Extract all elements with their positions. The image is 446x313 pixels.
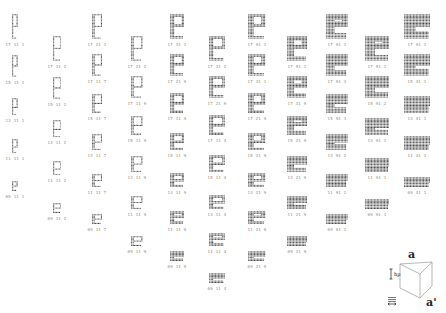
letter-e-glyph	[209, 115, 225, 135]
legend-label-a-prime: a'	[426, 296, 437, 309]
letter-e-glyph	[12, 14, 18, 39]
glyph-parameter-label: 09 11 1	[6, 194, 25, 199]
letter-e-glyph	[170, 173, 185, 188]
glyph-cell: 09 11 7	[82, 214, 112, 232]
glyph-parameter-label: 17 31 2	[208, 64, 227, 69]
letter-e-glyph	[170, 133, 185, 150]
letter-e-glyph	[365, 36, 390, 61]
letter-e-glyph	[131, 156, 143, 172]
glyph-parameter-label: 17 91 1	[328, 42, 347, 47]
glyph-cell: 09 21 9	[282, 236, 312, 254]
glyph-cell: 09 41 1	[402, 177, 432, 195]
glyph-cell: 17 91 1	[282, 36, 312, 69]
letter-e-glyph	[209, 76, 225, 98]
letter-e-glyph	[92, 54, 102, 76]
letter-e-glyph	[131, 76, 143, 98]
glyph-cell: 17 31 2	[202, 36, 232, 69]
glyph-cell: 15 11 1	[0, 55, 30, 85]
glyph-parameter-label: 17 91 1	[248, 42, 267, 47]
letter-e-glyph	[287, 36, 307, 61]
glyph-parameter-label: 17 11 9	[128, 101, 147, 106]
letter-e-glyph	[209, 155, 225, 172]
glyph-cell: 15 41 1	[402, 54, 432, 84]
letter-e-glyph	[365, 118, 390, 135]
glyph-parameter-label: 13 11 4	[208, 212, 227, 217]
glyph-parameter-label: 13 11 9	[168, 190, 187, 195]
glyph-cell: 17 21 9	[162, 54, 192, 84]
letter-e-glyph	[131, 236, 143, 246]
glyph-cell: 17 11 9	[122, 76, 152, 106]
glyph-parameter-label: 09 21 9	[288, 249, 307, 254]
letter-e-glyph	[326, 54, 348, 76]
glyph-parameter-label: 13 21 9	[248, 190, 267, 195]
glyph-cell: 17 11 9	[162, 93, 192, 121]
glyph-parameter-label: 13 11 2	[48, 140, 67, 145]
glyph-parameter-label: 09 11 4	[208, 286, 227, 291]
letter-e-glyph	[209, 273, 225, 283]
glyph-cell: 17 31 9	[282, 76, 312, 106]
letter-e-glyph	[170, 14, 185, 39]
letter-e-glyph	[170, 54, 185, 76]
glyph-parameter-label: 15 21 9	[288, 138, 307, 143]
glyph-parameter-label: 09 41 1	[408, 190, 427, 195]
glyph-cell: 15 21 9	[242, 133, 272, 158]
letter-e-glyph	[53, 36, 62, 61]
letter-e-glyph	[131, 36, 143, 61]
glyph-cell: 17 91 1	[322, 14, 352, 47]
glyph-cell: 13 11 4	[202, 195, 232, 218]
glyph-cell: 15 91 2	[362, 76, 392, 106]
letter-e-glyph	[170, 211, 185, 224]
letter-e-glyph	[53, 120, 62, 137]
glyph-parameter-label: 17 21 1	[88, 42, 107, 47]
glyph-cell: 11 41 1	[402, 136, 432, 159]
glyph-parameter-label: 15 11 7	[88, 116, 107, 121]
letter-e-glyph	[131, 196, 143, 209]
glyph-cell: 09 11 1	[0, 181, 30, 199]
letter-e-glyph	[287, 236, 307, 246]
letter-e-glyph	[209, 233, 225, 246]
glyph-cell: 17 31 1	[162, 14, 192, 47]
glyph-parameter-label: 15 11 9	[128, 138, 147, 143]
glyph-cell: 11 91 1	[362, 158, 392, 181]
glyph-cell: 11 21 9	[282, 196, 312, 217]
letter-e-glyph	[53, 77, 62, 99]
glyph-parameter-label: 17 21 2	[128, 64, 147, 69]
glyph-parameter-label: 15 21 9	[248, 153, 267, 158]
glyph-parameter-label: 11 91 1	[368, 175, 387, 180]
glyph-parameter-label: 09 11 9	[128, 249, 147, 254]
letter-e-glyph	[248, 93, 265, 113]
glyph-parameter-label: 09 11 9	[168, 264, 187, 269]
letter-e-glyph	[12, 98, 18, 115]
glyph-cell: 13 21 9	[282, 156, 312, 180]
glyph-cell: 09 91 1	[362, 199, 392, 217]
glyph-cell: 17 21 9	[242, 93, 272, 121]
glyph-cell: 11 21 9	[242, 211, 272, 232]
letter-e-glyph	[170, 251, 185, 261]
glyph-parameter-label: 09 91 1	[328, 227, 347, 232]
glyph-parameter-label: 11 11 9	[168, 227, 187, 232]
letter-e-glyph	[404, 96, 430, 113]
glyph-parameter-label: 17 21 9	[248, 116, 267, 121]
glyph-cell: 17 11 4	[202, 115, 232, 143]
letter-e-glyph	[248, 251, 265, 261]
letter-e-glyph	[53, 161, 62, 176]
glyph-parameter-label: 09 21 9	[248, 264, 267, 269]
letter-e-glyph	[287, 116, 307, 135]
letter-e-glyph	[404, 136, 430, 151]
glyph-cell: 17 21 1	[82, 14, 112, 47]
letter-e-glyph	[287, 76, 307, 98]
glyph-parameter-label: 13 41 1	[408, 116, 427, 121]
glyph-parameter-label: 13 91 1	[368, 138, 387, 143]
glyph-cell: 11 11 1	[0, 139, 30, 162]
glyph-parameter-label: 11 21 9	[288, 212, 307, 217]
glyph-cell: 15 21 9	[282, 116, 312, 143]
glyph-parameter-label: 09 91 1	[368, 212, 387, 217]
glyph-parameter-label: 17 31 9	[288, 101, 307, 106]
letter-e-glyph	[92, 134, 102, 150]
glyph-parameter-label: 13 11 1	[6, 118, 25, 123]
glyph-cell: 09 11 9	[162, 251, 192, 269]
letter-e-glyph	[248, 173, 265, 188]
glyph-parameter-label: 15 91 3	[328, 116, 347, 121]
letter-e-glyph	[209, 36, 225, 61]
glyph-cell: 11 11 4	[202, 233, 232, 254]
